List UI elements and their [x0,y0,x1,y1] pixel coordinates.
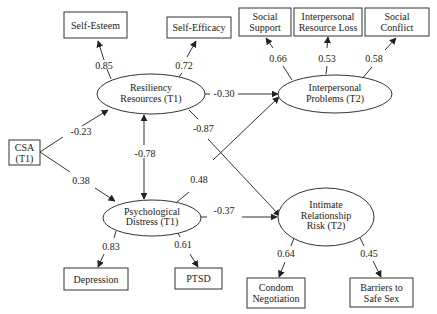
edge-intimate-condom [291,238,294,246]
coef-resiliency-self-efficacy: 0.72 [175,60,193,71]
node-csa-label-2: (T1) [16,153,34,165]
coef-ip-social-conflict: 0.58 [365,53,383,64]
node-social-conflict-label-2: Conflict [381,22,414,33]
node-depression: Depression [64,268,128,290]
node-barriers-label-2: Safe Sex [364,293,399,304]
node-social-conflict: Social Conflict [365,8,429,36]
coef-ip-resource-loss: 0.53 [318,53,336,64]
node-self-efficacy-label: Self-Efficacy [172,22,225,33]
edge-csa-distress [40,152,70,172]
node-resiliency-resources: Resiliency Resources (T1) [97,74,205,114]
node-social-support-label-1: Social [253,11,278,22]
node-distress-label-2: Distress (T1) [126,216,179,228]
node-condom-label-1: Condom [259,282,294,293]
coef-distress-depression: 0.83 [102,241,120,252]
node-csa-label-1: CSA [15,142,35,153]
node-ip-label-1: Interpersonal [309,82,362,93]
node-resource-loss-label-2: Resource Loss [299,22,358,33]
node-interpersonal-problems: Interpersonal Problems (T2) [278,75,392,113]
node-barriers-label-1: Barriers to [360,282,403,293]
edge-resiliency-self-efficacy-arrow [187,41,196,57]
edge-csa-distress-arrow [95,188,115,201]
node-csa: CSA (T1) [9,140,40,165]
edge-distress-ip [177,192,189,202]
coef-intimate-barriers: 0.45 [360,248,378,259]
node-condom-label-2: Negotiation [252,293,299,304]
edge-ip-resource-loss [326,66,327,74]
coef-csa-distress: 0.38 [72,175,90,186]
node-resiliency-label-2: Resources (T1) [120,93,181,105]
edge-ip-social-support-arrow [266,38,273,48]
coef-ip-social-support: 0.66 [269,53,287,64]
edge-ip-social-conflict-arrow [385,38,396,50]
node-resource-loss-label-1: Interpersonal [302,11,355,22]
edge-csa-resiliency [40,137,63,152]
coef-resiliency-ip: -0.30 [214,88,235,99]
sem-diagram: 0.85 0.72 0.66 0.53 0.58 -0.30 -0.87 -0.… [0,0,437,314]
node-ptsd: PTSD [175,268,222,289]
node-intimate-relationship-risk: Intimate Relationship Risk (T2) [278,188,374,246]
node-intimate-label-1: Intimate [309,199,343,210]
edge-distress-ptsd-arrow [190,254,198,267]
coef-distress-ptsd: 0.61 [174,239,192,250]
edge-resiliency-intimate [189,110,198,119]
coef-distress-ip: 0.48 [190,174,208,185]
coef-distress-intimate: -0.37 [214,205,235,216]
node-interpersonal-resource-loss: Interpersonal Resource Loss [294,8,362,36]
edge-distress-depression-arrow [98,254,104,267]
node-social-support-label-2: Support [249,22,281,33]
edge-resiliency-self-esteem-arrow [98,41,104,60]
node-barriers-safe-sex: Barriers to Safe Sex [350,278,413,307]
node-intimate-label-3: Risk (T2) [307,220,346,232]
edge-csa-resiliency-arrow [82,110,108,126]
coef-resiliency-distress: -0.78 [135,148,156,159]
node-ip-label-2: Problems (T2) [306,93,364,105]
edge-distress-ip-arrow [213,97,279,160]
node-resiliency-label-1: Resiliency [130,82,172,93]
edge-intimate-condom-arrow [279,262,285,277]
edge-intimate-barriers [360,238,364,246]
coef-intimate-condom: 0.64 [277,248,295,259]
coef-resiliency-intimate: -0.87 [193,123,214,134]
node-social-conflict-label-1: Social [385,11,410,22]
node-self-esteem-label: Self-Esteem [71,20,120,31]
coef-resiliency-self-esteem: 0.85 [95,60,113,71]
node-condom-negotiation: Condom Negotiation [247,278,305,308]
node-social-support: Social Support [239,8,291,36]
edge-ip-social-support [283,66,292,80]
node-self-esteem: Self-Esteem [64,12,127,38]
node-ptsd-label: PTSD [186,273,210,284]
node-self-efficacy: Self-Efficacy [167,17,231,38]
node-depression-label: Depression [74,274,119,285]
node-psychological-distress: Psychological Distress (T1) [103,200,201,236]
edge-distress-depression [114,231,116,238]
edge-intimate-barriers-arrow [373,261,381,277]
coef-csa-resiliency: -0.23 [71,126,92,137]
edge-ip-resource-loss-arrow [327,37,328,48]
